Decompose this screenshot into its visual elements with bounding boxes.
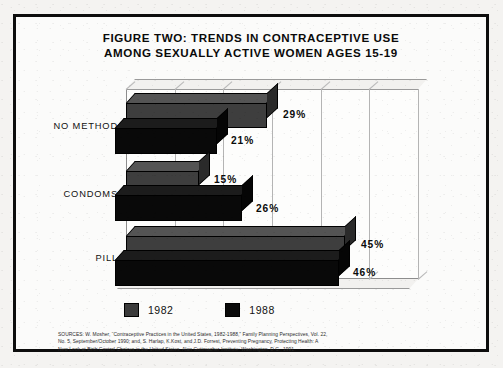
figure-frame: FIGURE TWO: TRENDS IN CONTRACEPTIVE USE … xyxy=(13,14,489,352)
figure-title-line-2: AMONG SEXUALLY ACTIVE WOMEN AGES 15-19 xyxy=(16,46,486,61)
bar-top-face xyxy=(115,185,251,195)
source-note-line-1: SOURCES: W. Mosher, “Contraceptive Pract… xyxy=(58,331,460,338)
bar-top-face xyxy=(115,118,226,128)
bar-top-face xyxy=(115,250,348,260)
value-label-condoms-1988: 26% xyxy=(256,203,279,214)
bar-no-method-1988 xyxy=(115,128,217,154)
legend-item-1988: 1988 xyxy=(225,303,274,317)
bar-top-face xyxy=(126,161,208,171)
bar-front-face xyxy=(115,195,242,221)
figure-title: FIGURE TWO: TRENDS IN CONTRACEPTIVE USE … xyxy=(16,31,486,60)
chart-plot-area: NO METHOD CONDOMS PILL 29% 21% xyxy=(38,79,470,291)
bar-condoms-1988 xyxy=(115,195,242,221)
gridline-60 xyxy=(418,89,419,279)
legend-label-1982: 1982 xyxy=(148,304,173,316)
source-note-line-2: No. 5, September/October 1990; and, S. H… xyxy=(58,338,460,345)
legend-label-1988: 1988 xyxy=(249,304,274,316)
source-note: SOURCES: W. Mosher, “Contraceptive Pract… xyxy=(58,331,460,353)
figure-title-line-1: FIGURE TWO: TRENDS IN CONTRACEPTIVE USE xyxy=(16,31,486,46)
source-note-line-3: New Look at Birth Control Choices in the… xyxy=(58,346,460,353)
bar-front-face xyxy=(115,260,339,286)
category-label-condoms: CONDOMS xyxy=(64,189,119,199)
legend-item-1982: 1982 xyxy=(124,303,173,317)
value-label-pill-1982: 45% xyxy=(361,239,384,250)
bar-front-face xyxy=(115,128,217,154)
value-label-no-method-1982: 29% xyxy=(283,109,306,120)
legend-swatch-1988 xyxy=(225,303,240,317)
chart-legend: 1982 1988 xyxy=(124,303,275,317)
value-label-condoms-1982: 15% xyxy=(214,174,237,185)
category-label-no-method: NO METHOD xyxy=(54,121,118,131)
gridline-50 xyxy=(369,89,370,279)
page-background: FIGURE TWO: TRENDS IN CONTRACEPTIVE USE … xyxy=(0,0,503,368)
value-label-pill-1988: 46% xyxy=(353,267,376,278)
bar-top-face xyxy=(126,226,354,236)
legend-swatch-1982 xyxy=(124,303,139,317)
bar-top-face xyxy=(126,93,276,103)
bar-pill-1988 xyxy=(115,260,339,286)
floor-tick-60 xyxy=(418,271,428,280)
value-label-no-method-1988: 21% xyxy=(231,135,254,146)
